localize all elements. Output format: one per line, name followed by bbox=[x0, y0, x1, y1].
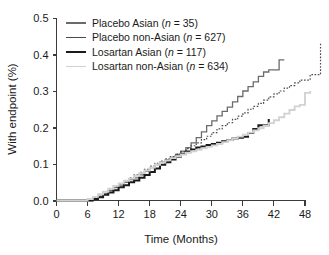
x-tick-label: 6 bbox=[85, 208, 91, 220]
x-axis-title: Time (Months) bbox=[144, 233, 218, 245]
chart-legend: Placebo Asian (n = 35)Placebo non-Asian … bbox=[66, 17, 228, 73]
x-tick-label: 36 bbox=[237, 208, 249, 220]
x-tick-label: 12 bbox=[113, 208, 125, 220]
legend-label: Losartan Asian (n = 117) bbox=[92, 46, 206, 58]
x-tick-label: 0 bbox=[53, 208, 59, 220]
y-tick-label: 0.4 bbox=[33, 49, 48, 61]
y-axis-ticks: 0.00.10.20.30.40.5 bbox=[33, 12, 56, 207]
y-tick-label: 0.2 bbox=[33, 122, 48, 134]
legend-label: Placebo Asian (n = 35) bbox=[92, 17, 198, 29]
x-tick-label: 30 bbox=[206, 208, 218, 220]
survival-curve-figure: 0.00.10.20.30.40.5 0612182430364248 Time… bbox=[0, 0, 329, 255]
series-line-losartan-asian bbox=[57, 119, 269, 200]
legend-label: Losartan non-Asian (n = 634) bbox=[92, 60, 228, 72]
legend-label: Placebo non-Asian (n = 627) bbox=[92, 31, 225, 43]
y-axis-title: With endpoint (%) bbox=[6, 63, 18, 155]
x-tick-label: 24 bbox=[175, 208, 187, 220]
chart-canvas: 0.00.10.20.30.40.5 0612182430364248 Time… bbox=[0, 0, 329, 255]
x-axis-ticks: 0612182430364248 bbox=[53, 201, 311, 220]
x-tick-label: 48 bbox=[299, 208, 311, 220]
y-tick-label: 0.1 bbox=[33, 158, 48, 170]
series-line-placebo-asian bbox=[57, 60, 285, 201]
y-tick-label: 0.0 bbox=[33, 195, 48, 207]
x-tick-label: 42 bbox=[268, 208, 280, 220]
y-tick-label: 0.3 bbox=[33, 85, 48, 97]
x-tick-label: 18 bbox=[144, 208, 156, 220]
series-line-losartan-non-asian bbox=[57, 91, 311, 201]
y-tick-label: 0.5 bbox=[33, 12, 48, 24]
